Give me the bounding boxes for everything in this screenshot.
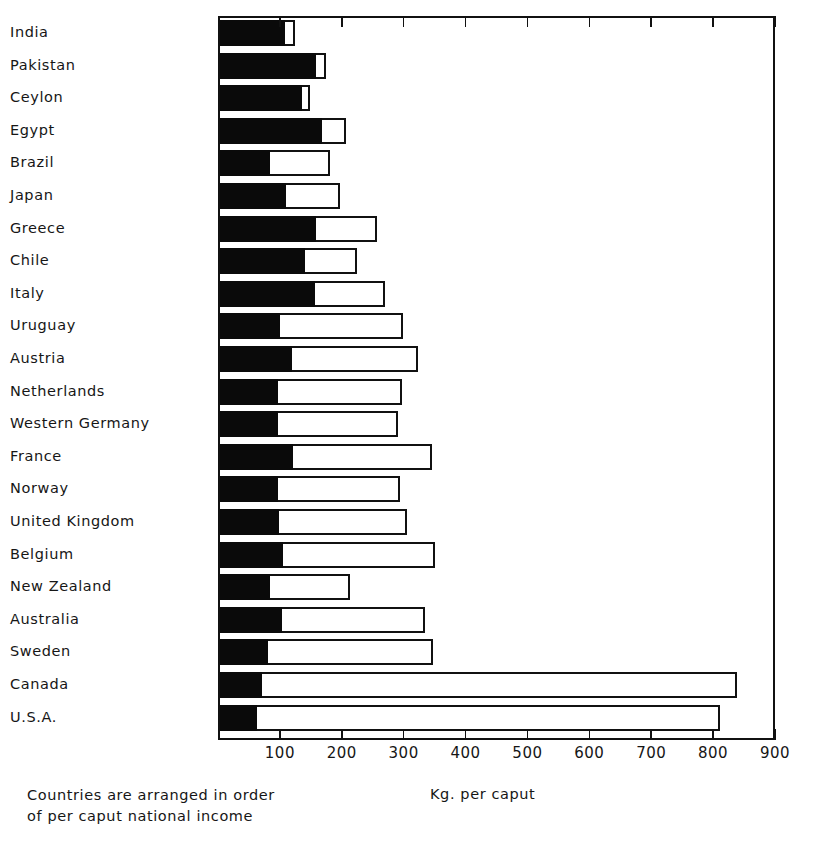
axis-tick [527, 729, 529, 740]
category-label: Japan [10, 188, 200, 203]
axis-tick [403, 16, 405, 27]
category-label: Pakistan [10, 58, 200, 73]
bar-segment-direct [218, 281, 315, 307]
bar-row [218, 379, 775, 405]
category-label: Norway [10, 481, 200, 496]
bar-segment-direct [218, 313, 280, 339]
bar-row [218, 150, 775, 176]
chart-note-line-1: Countries are arranged in order [27, 785, 275, 806]
category-label: Egypt [10, 123, 200, 138]
bar-row [218, 346, 775, 372]
chart-note: Countries are arranged in order of per c… [27, 785, 275, 827]
category-label: Western Germany [10, 416, 200, 431]
bar-segment-total [218, 672, 737, 698]
bar-segment-direct [218, 183, 286, 209]
category-label: Canada [10, 677, 200, 692]
axis-tick [465, 16, 467, 27]
x-axis-tick-label: 200 [312, 744, 372, 762]
axis-tick [403, 729, 405, 740]
bar-row [218, 183, 775, 209]
bar-segment-direct [218, 639, 268, 665]
bar-row [218, 509, 775, 535]
axis-tick [279, 729, 281, 740]
axis-tick [589, 729, 591, 740]
category-label: New Zealand [10, 579, 200, 594]
bar-row [218, 216, 775, 242]
x-axis-tick-label: 600 [559, 744, 619, 762]
bar-segment-direct [218, 216, 316, 242]
bar-row [218, 118, 775, 144]
bar-row [218, 672, 775, 698]
x-axis-tick-label: 900 [745, 744, 805, 762]
chart-note-line-2: of per caput national income [27, 806, 275, 827]
bar-row [218, 248, 775, 274]
bar-row [218, 85, 775, 111]
x-axis-tick-label: 700 [621, 744, 681, 762]
category-label: Brazil [10, 155, 200, 170]
category-label: U.S.A. [10, 710, 200, 725]
bar-segment-direct [218, 607, 282, 633]
category-label: Belgium [10, 547, 200, 562]
bar-segment-direct [218, 150, 270, 176]
bar-row [218, 444, 775, 470]
bar-segment-direct [218, 411, 278, 437]
bar-row [218, 639, 775, 665]
bar-segment-direct [218, 444, 293, 470]
axis-tick [527, 16, 529, 27]
bar-segment-direct [218, 248, 305, 274]
bar-segment-direct [218, 509, 279, 535]
bar-row [218, 281, 775, 307]
bar-segment-direct [218, 20, 285, 46]
axis-tick [650, 16, 652, 27]
category-label: United Kingdom [10, 514, 200, 529]
bar-segment-direct [218, 379, 278, 405]
bar-row [218, 411, 775, 437]
axis-tick [341, 729, 343, 740]
bar-row [218, 705, 775, 731]
category-label: Greece [10, 221, 200, 236]
bar-segment-direct [218, 85, 302, 111]
plot-area [218, 16, 775, 740]
category-label-column: IndiaPakistanCeylonEgyptBrazilJapanGreec… [0, 0, 206, 740]
bar-segment-direct [218, 53, 316, 79]
bar-row [218, 20, 775, 46]
axis-tick [465, 729, 467, 740]
bar-row [218, 607, 775, 633]
bar-segment-direct [218, 672, 262, 698]
chart-figure: IndiaPakistanCeylonEgyptBrazilJapanGreec… [0, 0, 825, 851]
bar-segment-direct [218, 542, 283, 568]
category-label: Netherlands [10, 384, 200, 399]
bar-row [218, 476, 775, 502]
x-axis-tick-label: 800 [683, 744, 743, 762]
axis-tick [650, 729, 652, 740]
bar-segment-direct [218, 476, 278, 502]
x-axis-tick-label: 400 [436, 744, 496, 762]
x-axis-tick-label: 500 [497, 744, 557, 762]
x-axis-title: Kg. per caput [430, 786, 535, 802]
category-label: Australia [10, 612, 200, 627]
x-axis-tick-label: 100 [250, 744, 310, 762]
axis-tick [712, 16, 714, 27]
category-label: Uruguay [10, 318, 200, 333]
bar-segment-direct [218, 118, 322, 144]
category-label: Austria [10, 351, 200, 366]
category-label: Ceylon [10, 90, 200, 105]
axis-tick [341, 16, 343, 27]
bar-row [218, 313, 775, 339]
axis-tick [712, 729, 714, 740]
bar-row [218, 542, 775, 568]
bar-segment-direct [218, 705, 257, 731]
bar-segment-direct [218, 346, 292, 372]
axis-tick [774, 16, 776, 27]
axis-tick [279, 16, 281, 27]
category-label: Italy [10, 286, 200, 301]
category-label: India [10, 25, 200, 40]
axis-tick [774, 729, 776, 740]
x-axis-tick-label: 300 [374, 744, 434, 762]
category-label: France [10, 449, 200, 464]
axis-tick [589, 16, 591, 27]
category-label: Sweden [10, 644, 200, 659]
category-label: Chile [10, 253, 200, 268]
bar-row [218, 53, 775, 79]
bar-segment-direct [218, 574, 270, 600]
